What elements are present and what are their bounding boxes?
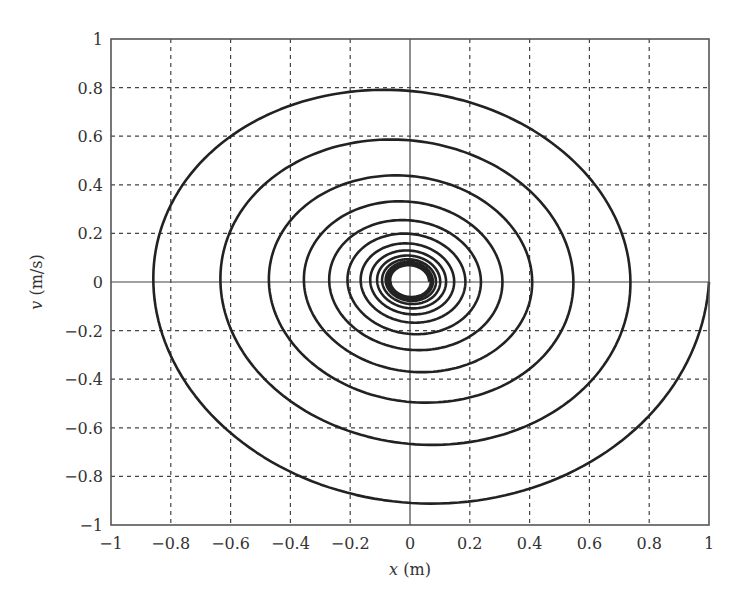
y-tick-label: −0.2 [64, 322, 103, 341]
x-tick-label: 0.4 [517, 534, 542, 553]
y-tick-label: −0.4 [64, 370, 103, 389]
x-axis-label: x (m) [389, 560, 431, 579]
x-tick-label: 1 [704, 534, 714, 553]
x-tick-label: 0.2 [457, 534, 482, 553]
y-tick-label: −1 [79, 516, 103, 535]
x-axis-var: x [389, 560, 398, 579]
y-tick-labels: −1−0.8−0.6−0.4−0.200.20.40.60.81 [64, 30, 103, 535]
spiral-trajectory [153, 90, 709, 504]
y-tick-label: 0.2 [78, 224, 103, 243]
y-tick-label: −0.6 [64, 419, 103, 438]
y-tick-label: 1 [93, 30, 103, 49]
x-tick-label: −0.4 [271, 534, 310, 553]
y-axis-unit: (m/s) [27, 254, 46, 300]
x-tick-label: 0.6 [577, 534, 602, 553]
y-tick-label: −0.8 [64, 467, 103, 486]
y-axis-label: v (m/s) [27, 254, 46, 309]
x-tick-label: −0.6 [211, 534, 250, 553]
phase-portrait-chart: −1−0.8−0.6−0.4−0.200.20.40.60.81 −1−0.8−… [0, 0, 749, 610]
x-tick-label: −0.8 [151, 534, 190, 553]
y-axis-var: v [27, 301, 46, 310]
x-tick-label: −1 [99, 534, 123, 553]
zero-axes [111, 39, 709, 525]
y-tick-label: 0.4 [78, 176, 103, 195]
x-tick-label: 0 [405, 534, 415, 553]
y-tick-label: 0 [93, 273, 103, 292]
y-tick-label: 0.8 [78, 79, 103, 98]
x-tick-label: −0.2 [331, 534, 370, 553]
y-tick-label: 0.6 [78, 127, 103, 146]
x-tick-labels: −1−0.8−0.6−0.4−0.200.20.40.60.81 [99, 534, 714, 553]
x-tick-label: 0.8 [636, 534, 661, 553]
x-axis-unit: (m) [398, 560, 431, 579]
